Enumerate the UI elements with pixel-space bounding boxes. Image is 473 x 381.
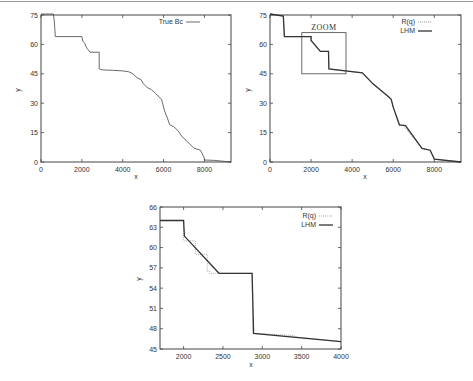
y-tick-label: 75 <box>259 12 267 19</box>
figure-canvas: 0200040006000800001530456075 True Bc x y… <box>0 0 473 381</box>
y-tick-label: 45 <box>259 70 267 77</box>
x-tick-label: 4000 <box>115 166 131 173</box>
y-tick-label: 60 <box>149 244 157 251</box>
y-tick-label: 0 <box>263 159 267 166</box>
series-true-bc <box>41 14 231 162</box>
series-lhm <box>160 221 341 342</box>
x-tick-label: 3500 <box>294 353 310 360</box>
y-tick-label: 60 <box>259 41 267 48</box>
x-tick-label: 2000 <box>176 353 192 360</box>
y-tick-label: 45 <box>149 346 157 353</box>
x-axis-label: x <box>363 173 367 180</box>
x-axis-label: x <box>249 361 253 368</box>
x-tick-label: 6000 <box>156 166 172 173</box>
axis-ticks: 0200040006000800001530456075 <box>259 12 461 174</box>
x-tick-label: 0 <box>268 166 272 173</box>
y-tick-label: 66 <box>149 204 157 211</box>
y-tick-label: 54 <box>149 285 157 292</box>
series-lhm <box>270 14 461 162</box>
legend-label-lhm: LHM <box>301 221 316 228</box>
x-tick-label: 2000 <box>74 166 90 173</box>
x-tick-label: 4000 <box>344 166 360 173</box>
y-tick-label: 57 <box>149 264 157 271</box>
x-tick-label: 8000 <box>427 166 443 173</box>
y-axis-label: y <box>244 88 252 92</box>
x-tick-label: 6000 <box>385 166 401 173</box>
legend-label-rq: R(q) <box>302 212 316 220</box>
x-tick-label: 2500 <box>215 353 231 360</box>
legend-label-true-bc: True Bc <box>159 18 184 25</box>
x-tick-label: 0 <box>39 166 43 173</box>
y-tick-label: 48 <box>149 325 157 332</box>
y-tick-label: 60 <box>30 41 38 48</box>
y-tick-label: 30 <box>259 100 267 107</box>
plot-true-bc: 0200040006000800001530456075 True Bc x y <box>14 12 231 181</box>
plot-zoom-detail: 200025003000350040004548515457606366 R(q… <box>135 204 349 369</box>
y-tick-label: 30 <box>30 100 38 107</box>
plot-frame <box>160 207 341 349</box>
legend-label-rq: R(q) <box>401 18 415 26</box>
x-tick-label: 8000 <box>197 166 213 173</box>
legend-label-lhm: LHM <box>400 27 415 34</box>
y-tick-label: 51 <box>149 305 157 312</box>
x-tick-label: 4000 <box>333 353 349 360</box>
x-tick-label: 2000 <box>303 166 319 173</box>
plot-frame <box>41 15 231 162</box>
y-tick-label: 15 <box>259 129 267 136</box>
axis-ticks: 200025003000350040004548515457606366 <box>149 204 349 361</box>
zoom-label: ZOOM <box>311 23 337 32</box>
y-tick-label: 63 <box>149 224 157 231</box>
axis-ticks: 0200040006000800001530456075 <box>30 12 231 174</box>
y-tick-label: 45 <box>30 70 38 77</box>
x-tick-label: 3000 <box>255 353 271 360</box>
x-axis-label: x <box>134 173 138 180</box>
y-tick-label: 15 <box>30 129 38 136</box>
y-axis-label: y <box>135 277 143 281</box>
zoom-region-box <box>302 33 346 74</box>
plot-rq-lhm: 0200040006000800001530456075 ZOOM R(q) L… <box>244 12 461 181</box>
y-axis-label: y <box>14 88 22 92</box>
y-tick-label: 0 <box>34 159 38 166</box>
y-tick-label: 75 <box>30 12 38 19</box>
